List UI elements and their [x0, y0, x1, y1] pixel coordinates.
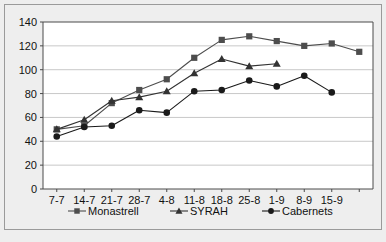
data-point-marker	[246, 77, 253, 84]
data-point-marker	[108, 122, 115, 129]
legend-label: SYRAH	[190, 205, 228, 217]
x-tick-label: 7-7	[49, 194, 65, 206]
legend-label: Cabernets	[282, 205, 333, 217]
data-point-marker	[268, 208, 274, 214]
y-tick-label: 140	[19, 16, 37, 28]
data-point-marker	[219, 37, 225, 43]
data-point-marker	[273, 83, 280, 90]
x-tick-label: 25-8	[238, 194, 260, 206]
legend-label: Monastrell	[88, 205, 139, 217]
y-tick-label: 40	[25, 135, 37, 147]
x-tick-label: 4-8	[159, 194, 175, 206]
y-tick-label: 60	[25, 111, 37, 123]
data-point-marker	[328, 89, 335, 96]
data-point-marker	[329, 40, 335, 46]
data-point-marker	[136, 87, 142, 93]
y-tick-label: 100	[19, 64, 37, 76]
legend-item-syrah[interactable]: SYRAH	[170, 205, 228, 217]
data-point-marker	[164, 76, 170, 82]
chart-legend: MonastrellSYRAHCabernets	[68, 205, 333, 217]
data-point-marker	[136, 107, 143, 114]
data-point-marker	[191, 88, 198, 95]
data-point-marker	[163, 109, 170, 116]
y-tick-label: 0	[31, 183, 37, 195]
data-point-marker	[301, 43, 307, 49]
legend-item-monastrell[interactable]: Monastrell	[68, 205, 139, 217]
y-tick-labels: 020406080100120140	[19, 16, 37, 195]
data-point-marker	[218, 87, 225, 94]
legend-item-cabernets[interactable]: Cabernets	[262, 205, 333, 217]
y-tick-label: 120	[19, 40, 37, 52]
chart-canvas: 020406080100120140 7-714-721-728-74-811-…	[4, 4, 382, 230]
data-point-marker	[81, 124, 88, 131]
data-point-marker	[246, 33, 252, 39]
data-point-marker	[301, 72, 308, 79]
data-point-marker	[53, 133, 60, 140]
line-chart: 020406080100120140 7-714-721-728-74-811-…	[5, 5, 383, 231]
chart-figure: 020406080100120140 7-714-721-728-74-811-…	[0, 0, 386, 242]
data-point-marker	[191, 55, 197, 61]
y-tick-label: 80	[25, 88, 37, 100]
plot-area-background	[43, 22, 373, 189]
data-point-marker	[356, 49, 362, 55]
data-point-marker	[74, 208, 79, 213]
y-tick-label: 20	[25, 159, 37, 171]
data-point-marker	[274, 38, 280, 44]
